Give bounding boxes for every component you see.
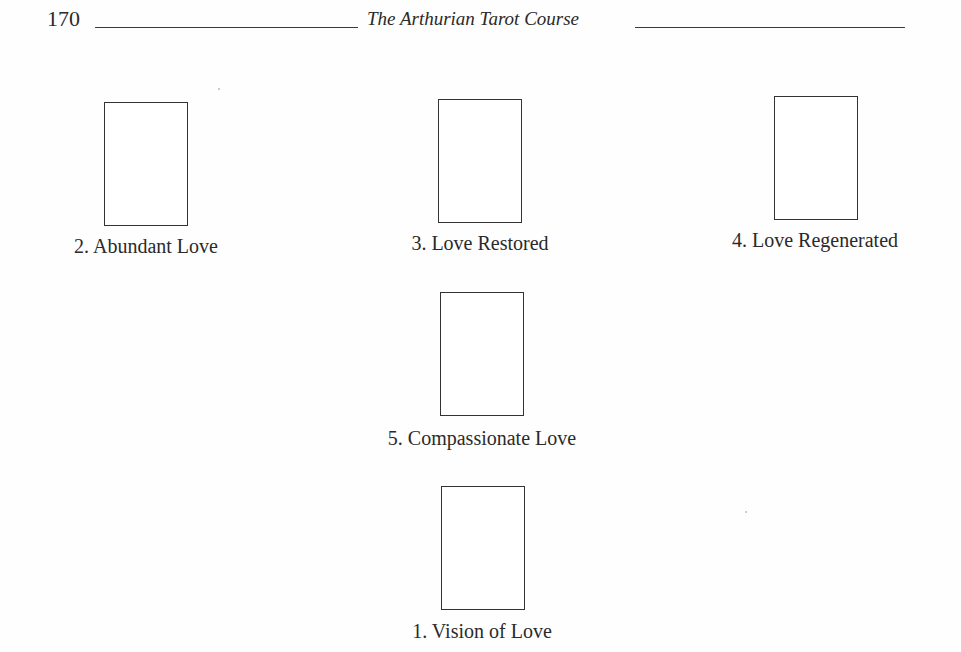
card-label-2: 2. Abundant Love	[74, 234, 218, 258]
card-slot-1	[441, 486, 525, 610]
running-title: The Arthurian Tarot Course	[367, 6, 579, 32]
card-slot-2	[104, 102, 188, 226]
book-page: 170 The Arthurian Tarot Course 2. Abunda…	[0, 0, 961, 652]
card-label-5: 5. Compassionate Love	[388, 426, 576, 450]
card-slot-3	[438, 99, 522, 223]
card-label-3: 3. Love Restored	[411, 231, 548, 255]
scan-speck	[745, 511, 747, 513]
card-slot-4	[774, 96, 858, 220]
page-number: 170	[47, 6, 80, 32]
header-rule-left	[95, 27, 358, 28]
header-rule-right	[635, 27, 905, 28]
scan-speck	[218, 88, 220, 90]
card-slot-5	[440, 292, 524, 416]
card-label-1: 1. Vision of Love	[412, 619, 552, 643]
card-label-4: 4. Love Regenerated	[732, 228, 898, 252]
